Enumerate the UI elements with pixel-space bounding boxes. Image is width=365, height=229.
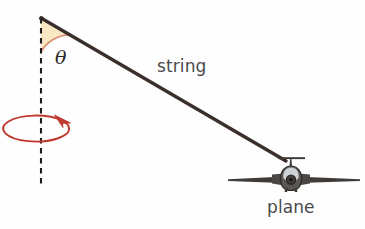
- airplane-graphic: [228, 157, 360, 192]
- theta-angle-label: θ: [55, 48, 66, 67]
- plane-left-wing: [228, 177, 275, 183]
- plane-label: plane: [267, 199, 315, 216]
- diagram-canvas: [0, 0, 365, 229]
- string-line: [41, 18, 286, 161]
- plane-horizontal-stabilizer: [278, 157, 305, 159]
- pivot-point: [39, 16, 44, 21]
- string-label: string: [157, 58, 206, 75]
- rotation-arrow: [3, 115, 70, 142]
- plane-right-wing: [307, 177, 360, 183]
- plane-spinner-center: [289, 178, 292, 181]
- physics-diagram-figure: ...... ....: [0, 0, 365, 229]
